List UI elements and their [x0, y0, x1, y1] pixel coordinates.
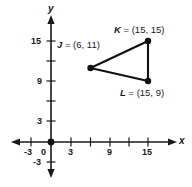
y-tick-label-15: 15 [31, 37, 41, 46]
y-axis-top-arrow-icon [47, 15, 54, 24]
point-label-l: L = (15, 9) [120, 88, 164, 98]
vertex-point-j [87, 65, 93, 71]
x-axis-right-arrow-icon [168, 138, 177, 145]
x-tick-label-15: 15 [142, 148, 152, 157]
y-tick-label-neg3: -3 [33, 158, 41, 167]
origin-point [48, 139, 55, 146]
point-label-k-name: K [114, 24, 121, 35]
x-axis-label: x [179, 136, 185, 146]
point-label-j-coords: = (6, 11) [62, 39, 100, 50]
point-label-l-coords: = (15, 9) [126, 87, 164, 98]
point-label-j: J = (6, 11) [57, 40, 100, 50]
x-tick-label-zero: 0 [41, 148, 46, 157]
x-tick-label-3: 3 [68, 148, 73, 157]
y-axis-bottom-arrow-icon [47, 169, 54, 178]
x-tick-label-neg3: -3 [24, 148, 32, 157]
x-axis-left-arrow-icon [11, 138, 20, 145]
y-axis-label: y [48, 4, 54, 14]
point-label-k: K = (15, 15) [114, 25, 164, 35]
y-tick-label-9: 9 [37, 77, 42, 86]
y-tick-label-3: 3 [37, 117, 42, 126]
vertex-point-l [145, 78, 151, 84]
coordinate-plane-figure: y x -3 0 3 9 15 15 9 3 -3 J = (6, 11) K … [0, 0, 192, 187]
point-label-k-coords: = (15, 15) [121, 24, 165, 35]
vertex-point-k [145, 38, 151, 44]
x-tick-label-9: 9 [107, 148, 112, 157]
